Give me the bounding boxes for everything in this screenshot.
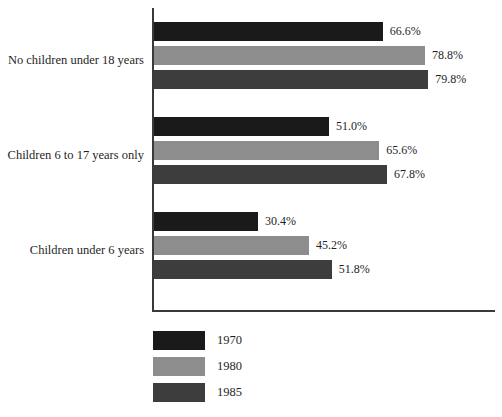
legend-label: 1980 [217, 359, 242, 374]
legend-swatch-1970 [153, 331, 205, 350]
bar-value-label: 78.8% [432, 48, 463, 63]
bar-1985 [153, 260, 332, 279]
bar-1970 [153, 212, 258, 231]
bar-value-label: 65.6% [386, 143, 417, 158]
bar-value-label: 67.8% [394, 167, 425, 182]
bar-group: Children 6 to 17 years only 51.0% 65.6% … [0, 117, 502, 207]
bar-value-label: 30.4% [265, 214, 296, 229]
bar-value-label: 51.0% [336, 119, 367, 134]
y-axis-line [152, 8, 154, 312]
legend-label: 1985 [217, 385, 242, 400]
category-label: Children under 6 years [0, 243, 144, 257]
category-label: Children 6 to 17 years only [0, 148, 144, 162]
bar-value-label: 79.8% [435, 72, 466, 87]
category-label: No children under 18 years [0, 53, 144, 67]
bar-chart: No children under 18 years 66.6% 78.8% 7… [0, 0, 502, 417]
bar-value-label: 51.8% [339, 262, 370, 277]
legend-swatch-1985 [153, 383, 205, 402]
x-axis-line [152, 310, 495, 312]
bar-1980 [153, 46, 425, 65]
bar-1980 [153, 141, 379, 160]
bar-value-label: 45.2% [316, 238, 347, 253]
bar-group: No children under 18 years 66.6% 78.8% 7… [0, 22, 502, 112]
bar-1970 [153, 22, 383, 41]
bar-1985 [153, 70, 428, 89]
bar-1985 [153, 165, 387, 184]
bar-group: Children under 6 years 30.4% 45.2% 51.8% [0, 212, 502, 302]
legend-label: 1970 [217, 333, 242, 348]
bar-1980 [153, 236, 309, 255]
legend-swatch-1980 [153, 357, 205, 376]
plot-area: No children under 18 years 66.6% 78.8% 7… [0, 0, 502, 312]
bar-1970 [153, 117, 329, 136]
bar-value-label: 66.6% [390, 24, 421, 39]
